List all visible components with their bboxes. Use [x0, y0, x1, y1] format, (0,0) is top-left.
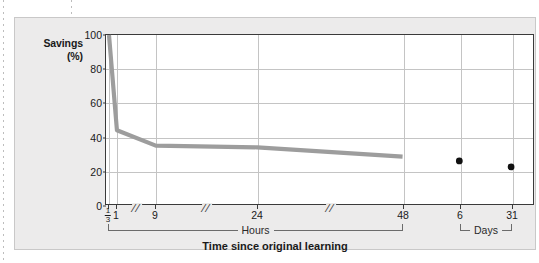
y-tick-label: 80 — [90, 63, 102, 75]
x-tick-label: 31 — [506, 209, 518, 221]
y-axis-title-line-1: Savings — [21, 37, 83, 50]
y-axis-title-line-2: (%) — [21, 50, 83, 63]
y-tick-label: 100 — [84, 29, 102, 41]
y-tick-label: 20 — [90, 166, 102, 178]
y-tick-mark — [103, 69, 106, 70]
page-margin-guide-left — [3, 0, 4, 263]
page-margin-guide-top — [71, 0, 72, 16]
y-tick-mark — [103, 137, 106, 138]
axis-break-mark: // — [199, 203, 212, 213]
x-tick-label: 24 — [251, 209, 263, 221]
x-tick-label: 48 — [397, 209, 409, 221]
axis-group-label: Days — [470, 224, 502, 236]
y-axis-title: Savings (%) — [21, 37, 83, 62]
y-tick-mark — [103, 35, 106, 36]
data-point — [508, 164, 515, 171]
plot-inner — [106, 35, 533, 204]
data-line-savings — [109, 35, 403, 157]
x-tick-label: 6 — [457, 209, 463, 221]
x-tick-label: 9 — [152, 209, 158, 221]
series-layer — [106, 35, 533, 205]
x-axis-title: Time since original learning — [15, 240, 535, 252]
y-tick-label: 40 — [90, 132, 102, 144]
y-tick-label: 60 — [90, 97, 102, 109]
plot-area: 020406080100 — [105, 34, 534, 205]
y-tick-mark — [103, 171, 106, 172]
figure-container: Savings (%) 020406080100 13192448631////… — [14, 17, 536, 250]
axis-break-mark: // — [323, 203, 336, 213]
y-tick-mark — [103, 103, 106, 104]
y-tick-label: 0 — [96, 200, 102, 212]
axis-group-label: Hours — [237, 224, 273, 236]
data-point — [456, 158, 463, 165]
axis-break-mark: // — [129, 203, 142, 213]
x-tick-label: 13 — [105, 207, 111, 224]
x-tick-label: 1 — [113, 209, 119, 221]
